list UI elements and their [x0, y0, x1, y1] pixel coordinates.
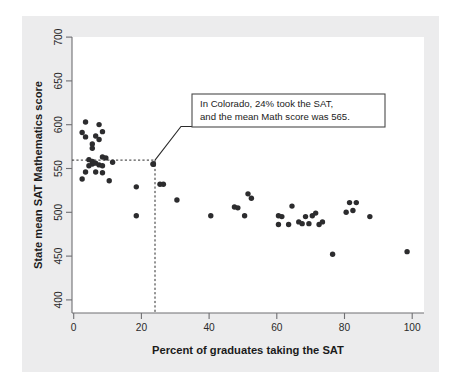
- x-axis-tick-labels: 0 20 40 60 80 100: [71, 322, 421, 333]
- annotation-callout: In Colorado, 24% took the SAT, and the m…: [192, 94, 385, 127]
- data-point: [161, 182, 166, 187]
- data-point: [303, 214, 308, 219]
- data-point: [313, 210, 318, 215]
- data-point: [249, 196, 254, 201]
- data-point: [100, 129, 105, 134]
- data-point: [235, 205, 240, 210]
- x-tick-label: 20: [136, 322, 148, 333]
- data-point: [107, 178, 112, 183]
- y-axis-title: State mean SAT Mathematics score: [32, 81, 44, 269]
- annotation-line-2: and the mean Math score was 565.: [200, 111, 350, 122]
- data-point: [96, 137, 101, 142]
- x-tick-label: 100: [404, 322, 421, 333]
- data-point: [208, 213, 213, 218]
- x-tick-label: 60: [271, 322, 283, 333]
- plot-area-background: [72, 37, 424, 313]
- y-tick-label: 450: [53, 247, 64, 264]
- data-point: [404, 249, 409, 254]
- data-point: [83, 119, 88, 124]
- data-point: [350, 208, 355, 213]
- y-tick-label: 700: [53, 28, 64, 45]
- y-axis-ticks: [66, 37, 72, 300]
- annotation-line-1: In Colorado, 24% took the SAT,: [200, 98, 333, 109]
- data-point: [79, 176, 84, 181]
- data-point: [286, 222, 291, 227]
- data-point: [134, 213, 139, 218]
- data-point: [320, 219, 325, 224]
- data-point: [96, 122, 101, 127]
- data-point: [90, 146, 95, 151]
- x-tick-label: 40: [203, 322, 215, 333]
- data-point: [103, 155, 108, 160]
- data-point: [343, 210, 348, 215]
- data-point: [83, 169, 88, 174]
- x-axis-title: Percent of graduates taking the SAT: [152, 344, 344, 356]
- data-point: [354, 200, 359, 205]
- x-tick-label: 80: [339, 322, 351, 333]
- data-point: [306, 221, 311, 226]
- data-point: [174, 197, 179, 202]
- data-point: [289, 203, 294, 208]
- y-axis-tick-labels: 400 450 500 550 600 650 700: [53, 28, 64, 308]
- data-point: [100, 170, 105, 175]
- data-point: [245, 191, 250, 196]
- data-point: [347, 200, 352, 205]
- highlighted-data-point-colorado: [150, 161, 156, 167]
- data-point: [299, 221, 304, 226]
- data-point: [367, 214, 372, 219]
- x-axis-ticks: [74, 313, 413, 319]
- scatter-plot: 400 450 500 550 600 650 700 0 20 40 60 8…: [22, 16, 439, 372]
- data-point: [276, 222, 281, 227]
- data-point: [134, 184, 139, 189]
- figure-panel: 400 450 500 550 600 650 700 0 20 40 60 8…: [22, 16, 439, 372]
- y-tick-label: 500: [53, 203, 64, 220]
- y-tick-label: 600: [53, 116, 64, 133]
- data-point: [86, 163, 91, 168]
- y-tick-label: 550: [53, 160, 64, 177]
- data-point: [110, 160, 115, 165]
- data-point: [330, 252, 335, 257]
- data-point: [100, 163, 105, 168]
- data-point: [83, 134, 88, 139]
- data-point: [93, 169, 98, 174]
- y-tick-label: 650: [53, 72, 64, 89]
- data-point: [79, 130, 84, 135]
- y-tick-label: 400: [53, 291, 64, 308]
- data-point: [279, 214, 284, 219]
- x-tick-label: 0: [71, 322, 77, 333]
- data-point: [242, 213, 247, 218]
